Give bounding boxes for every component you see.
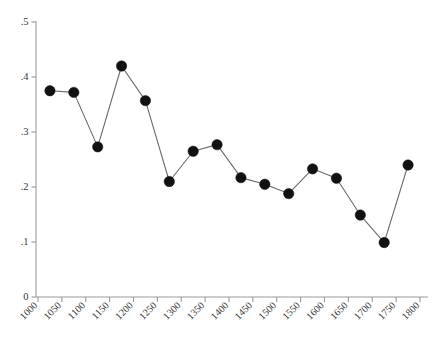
x-tick-label: 1300 — [161, 300, 183, 322]
x-tick-label: 1400 — [208, 300, 230, 322]
data-series — [45, 61, 414, 248]
line-chart: 0.1.2.3.4.5 1000105011001150120012501300… — [0, 0, 442, 343]
x-tick-label: 1600 — [304, 300, 326, 322]
data-point — [92, 142, 102, 152]
series-line — [50, 66, 408, 243]
x-tick-label: 1800 — [399, 300, 421, 322]
data-point — [188, 146, 198, 156]
x-tick-label: 1450 — [232, 300, 254, 322]
y-tick-label: .5 — [21, 16, 29, 27]
data-point — [116, 61, 126, 71]
data-point — [331, 173, 341, 183]
y-tick-label: .4 — [21, 71, 30, 82]
x-tick-label: 1100 — [65, 300, 87, 322]
data-point — [69, 87, 79, 97]
caption-strip — [0, 330, 442, 343]
data-point — [45, 86, 55, 96]
data-point — [307, 164, 317, 174]
data-point — [140, 95, 150, 105]
y-axis: 0.1.2.3.4.5 — [21, 16, 36, 302]
y-tick-label: 0 — [23, 291, 28, 302]
x-tick-label: 1500 — [256, 300, 278, 322]
x-tick-label: 1150 — [89, 300, 111, 322]
x-axis: 1000105011001150120012501300135014001450… — [17, 297, 428, 322]
x-tick-label: 1250 — [137, 300, 159, 322]
data-point — [379, 237, 389, 247]
x-tick-label: 1000 — [17, 300, 39, 322]
y-tick-label: .3 — [21, 126, 29, 137]
x-tick-label: 1550 — [280, 300, 302, 322]
y-tick-label: .2 — [21, 181, 29, 192]
x-tick-label: 1350 — [185, 300, 207, 322]
chart-figure: 0.1.2.3.4.5 1000105011001150120012501300… — [0, 0, 442, 343]
data-point — [260, 179, 270, 189]
x-tick-label: 1650 — [328, 300, 350, 322]
data-point — [355, 210, 365, 220]
data-point — [403, 160, 413, 170]
x-tick-label: 1700 — [352, 300, 374, 322]
data-point — [212, 139, 222, 149]
data-point — [164, 176, 174, 186]
x-tick-label: 1750 — [376, 300, 398, 322]
x-tick-label: 1050 — [41, 300, 63, 322]
data-point — [283, 188, 293, 198]
y-tick-label: .1 — [21, 236, 29, 247]
data-point — [236, 172, 246, 182]
x-tick-label: 1200 — [113, 300, 135, 322]
